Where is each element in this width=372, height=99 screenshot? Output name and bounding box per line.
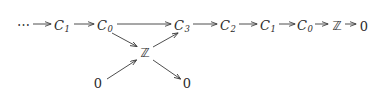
node-label-subscript: 0 [307, 24, 312, 34]
node-label-subscript: 1 [64, 24, 69, 34]
node-bottom-zero-right: 0 [183, 77, 191, 90]
ellipsis-node: ⋯ [17, 18, 32, 31]
node-bottom-zero-left: 0 [94, 77, 102, 90]
node-label-subscript: 1 [270, 24, 275, 34]
node-top-integers: ℤ [332, 20, 341, 33]
node-label-base: C [97, 18, 107, 33]
node-label-base: C [54, 18, 64, 33]
arrow-zero-up-to-z [107, 60, 137, 79]
node-top-c1-second: C1 [260, 19, 276, 34]
node-label-subscript: 3 [184, 24, 189, 34]
arrow-z-down-to-zero [153, 60, 181, 79]
node-label-base: C [260, 18, 270, 33]
node-label-base: C [220, 18, 230, 33]
node-label-base: C [297, 18, 307, 33]
node-label-base: C [174, 18, 184, 33]
node-top-c3: C3 [174, 19, 190, 34]
node-top-zero: 0 [360, 20, 368, 33]
arrow-z-up-to-c3 [153, 33, 178, 47]
node-top-c2: C2 [220, 19, 236, 34]
node-label-subscript: 2 [230, 24, 235, 34]
commutative-diagram: ⋯ C1 C0 C3 C2 C1 C0 ℤ 0 ℤ 0 0 [0, 0, 372, 99]
node-top-c0-first: C0 [97, 19, 113, 34]
node-top-c0-second: C0 [297, 19, 313, 34]
arrow-c0-down-to-z [112, 33, 137, 47]
node-top-c1-first: C1 [54, 19, 70, 34]
node-center-integers: ℤ [140, 47, 149, 60]
node-label-subscript: 0 [107, 24, 112, 34]
